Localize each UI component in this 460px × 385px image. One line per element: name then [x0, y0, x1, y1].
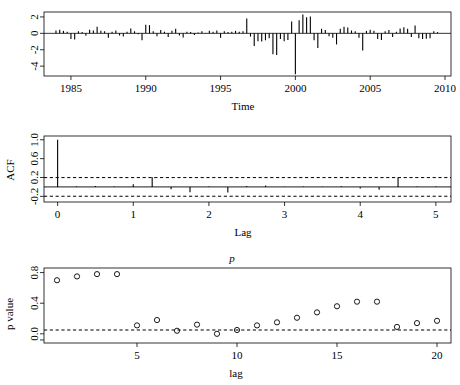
x-tick-label: 1995 [210, 82, 233, 94]
pvalue-plot-title: p [228, 252, 235, 264]
x-tick-label: 2010 [434, 82, 457, 94]
y-tick-label: -4 [28, 61, 40, 71]
acf-ylabel: ACF [4, 159, 16, 180]
acf-svg: 1.00.60.2-0.2012345 Lag ACF [0, 122, 460, 244]
pvalue-point [54, 278, 59, 283]
x-tick-label: 2005 [359, 82, 382, 94]
x-tick-label: 4 [357, 208, 363, 220]
y-tick-label: 0 [28, 30, 40, 36]
pvalue-ylabel: p value [3, 298, 15, 330]
x-tick-label: 1 [131, 208, 137, 220]
plot-frame [44, 136, 451, 202]
y-tick-label: 0.2 [28, 171, 40, 185]
y-tick-label: -0.2 [28, 188, 40, 205]
pvalue-point [214, 331, 219, 336]
acf-spikes [58, 140, 436, 193]
y-tick-label: 0.4 [28, 296, 40, 310]
x-tick-label: 1985 [60, 82, 83, 94]
pvalue-point [334, 304, 339, 309]
y-tick-label: 0.6 [28, 151, 40, 165]
x-tick-label: 5 [433, 208, 439, 220]
y-tick-label: 0.8 [28, 265, 40, 279]
pvalue-point [114, 272, 119, 277]
pvalue-point [194, 322, 199, 327]
x-tick-label: 2000 [284, 82, 307, 94]
pvalue-point [374, 299, 379, 304]
pvalue-point [254, 323, 259, 328]
pvalue-point [314, 310, 319, 315]
y-tick-label: 2 [28, 14, 40, 20]
pvalue-point [354, 299, 359, 304]
x-tick-label: 10 [232, 349, 244, 361]
figure-root: 20-2-4198519901995200020052010 Time 1.00… [0, 0, 460, 385]
pvalue-point [174, 328, 179, 333]
pvalue-point [74, 274, 79, 279]
pvalue-xlabel: lag [229, 367, 243, 379]
pvalue-point [134, 323, 139, 328]
y-tick-label: 0.0 [28, 326, 40, 340]
y-tick-label: -2 [28, 45, 40, 54]
x-tick-label: 1990 [135, 82, 158, 94]
timeseries-bars [56, 14, 438, 74]
plot-frame [44, 268, 451, 343]
plot-frame [44, 12, 451, 76]
pvalue-point [274, 320, 279, 325]
pvalue-point [414, 321, 419, 326]
x-tick-label: 5 [134, 349, 140, 361]
pvalue-point [294, 315, 299, 320]
panel-standardized-residuals: 20-2-4198519901995200020052010 Time [0, 0, 460, 118]
y-tick-label: 1.0 [28, 132, 40, 146]
timeseries-svg: 20-2-4198519901995200020052010 Time [0, 0, 460, 118]
x-tick-label: 15 [332, 349, 344, 361]
pvalue-svg: p 0.80.40.05101520 lag p value [0, 248, 460, 385]
pvalue-point [394, 324, 399, 329]
pvalue-point [434, 318, 439, 323]
x-tick-label: 0 [55, 208, 61, 220]
acf-xlabel: Lag [234, 226, 252, 238]
pvalue-point [154, 317, 159, 322]
panel-acf: 1.00.60.2-0.2012345 Lag ACF [0, 122, 460, 244]
x-tick-label: 20 [432, 349, 444, 361]
x-tick-label: 3 [282, 208, 288, 220]
pvalue-points [54, 272, 439, 337]
pvalue-point [94, 272, 99, 277]
x-tick-label: 2 [206, 208, 212, 220]
timeseries-xlabel: Time [232, 100, 255, 112]
panel-pvalues: p 0.80.40.05101520 lag p value [0, 248, 460, 385]
